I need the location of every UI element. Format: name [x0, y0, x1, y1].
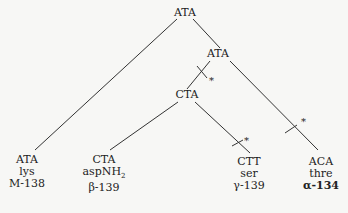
node-mid: ATA — [207, 48, 229, 60]
leaf-id: β-139 — [83, 182, 126, 194]
edge-root-to-ata — [35, 19, 177, 150]
leaf-alpha134: ACA thre α-134 — [303, 156, 339, 192]
mutation-marker: * — [301, 117, 306, 127]
edge-inner-to-ctt — [195, 102, 250, 153]
leaf-id: γ-139 — [233, 180, 264, 192]
leaf-id: M-138 — [9, 178, 45, 190]
leaf-id: α-134 — [303, 180, 339, 192]
leaf-m138: ATA lys M-138 — [9, 154, 45, 190]
leaf-amino-acid: aspNH2 — [83, 166, 126, 182]
leaf-beta139: CTA aspNH2 β-139 — [83, 154, 126, 194]
edge-mid-to-inner — [187, 61, 210, 89]
edge-inner-to-cta — [110, 102, 178, 150]
mutation-marker: * — [209, 76, 214, 86]
mutation-tick-mid-inner — [197, 66, 207, 78]
leaf-gamma139: CTT ser γ-139 — [233, 156, 264, 192]
node-inner: CTA — [175, 89, 198, 101]
edge-root-to-mid — [193, 19, 220, 48]
node-root: ATA — [174, 7, 196, 19]
mutation-marker: * — [244, 136, 249, 146]
mutation-tick-mid-aca — [285, 125, 297, 133]
tree-edges — [0, 0, 348, 213]
